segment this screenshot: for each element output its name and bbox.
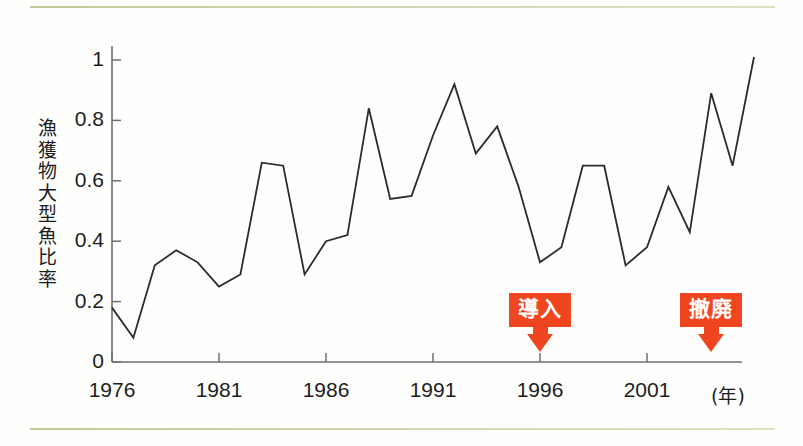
x-tick-label-4: 1996 <box>500 378 580 402</box>
x-axis-unit-label: (年) <box>711 381 745 408</box>
chart-area: 漁 獲 物 大 型 魚 比 率 00.20.40.60.81 197619811… <box>0 0 803 446</box>
annotation-arrow-icon <box>527 334 553 352</box>
annotation-label: 撤廃 <box>680 293 742 327</box>
x-tick-label-5: 2001 <box>607 378 687 402</box>
figure-container: 漁 獲 物 大 型 魚 比 率 00.20.40.60.81 197619811… <box>0 0 803 446</box>
x-tick-label-3: 1991 <box>393 378 473 402</box>
annotation-arrow-stem <box>704 327 719 334</box>
annotation-label: 導入 <box>509 293 571 327</box>
data-line-series <box>112 57 754 338</box>
y-tick-label-0: 0 <box>44 349 104 373</box>
annotation-introduction: 導入 <box>509 293 571 352</box>
y-tick-label-5: 1 <box>44 47 104 71</box>
annotation-arrow-icon <box>698 334 724 352</box>
y-tick-label-2: 0.4 <box>44 228 104 252</box>
y-tick-label-4: 0.8 <box>44 107 104 131</box>
y-tick-label-1: 0.2 <box>44 289 104 313</box>
x-tick-label-2: 1986 <box>286 378 366 402</box>
y-tick-label-3: 0.6 <box>44 168 104 192</box>
axes-group <box>112 46 742 362</box>
annotation-abolition: 撤廃 <box>680 293 742 352</box>
x-tick-label-1: 1981 <box>179 378 259 402</box>
x-tick-label-0: 1976 <box>72 378 152 402</box>
data-series-group <box>112 57 754 338</box>
annotation-arrow-stem <box>533 327 548 334</box>
